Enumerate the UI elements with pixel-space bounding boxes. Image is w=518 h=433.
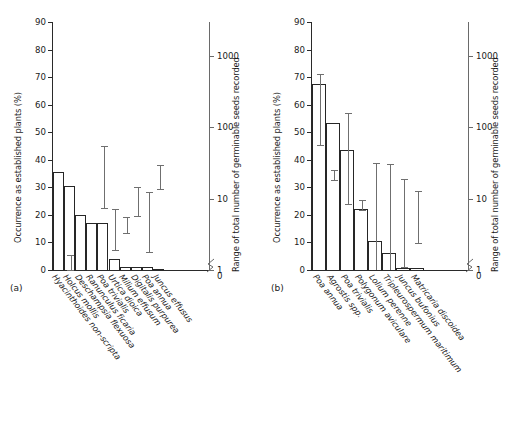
error-bar (320, 74, 321, 145)
bar (109, 259, 120, 270)
bar (97, 223, 108, 270)
error-bar-cap-top (317, 74, 324, 75)
error-bar (127, 217, 128, 233)
bar (75, 215, 86, 270)
left-tick (48, 105, 52, 106)
panel-b-right-axis-title: Range of total number of germinable seed… (490, 57, 500, 272)
error-bar-cap-top (401, 179, 408, 180)
right-tick (468, 56, 473, 57)
left-tick-label: 90 (294, 18, 305, 27)
right-tick-label: 100 (217, 123, 233, 132)
left-tick-label: 10 (294, 238, 305, 247)
error-bar (390, 164, 391, 270)
error-bar-cap-top (331, 170, 338, 171)
error-bar (348, 113, 349, 204)
error-bar-cap-top (101, 146, 108, 147)
bar (131, 267, 142, 270)
bar (120, 267, 131, 270)
left-tick-label: 50 (35, 128, 46, 137)
right-tick-label: 100 (476, 123, 492, 132)
error-bar-cap-top (134, 187, 141, 188)
error-bar-cap-bottom (359, 210, 366, 211)
figure-root: Occurrence as established plants (%) Ran… (0, 0, 518, 433)
error-bar-cap-bottom (67, 270, 74, 271)
left-tick-label: 20 (294, 211, 305, 220)
left-tick-label: 0 (300, 266, 305, 275)
left-tick (48, 215, 52, 216)
left-tick-label: 50 (294, 128, 305, 137)
bar (368, 241, 382, 270)
panel-a-right-axis-line (209, 22, 210, 270)
bar (340, 150, 354, 270)
error-bar (334, 170, 335, 180)
left-tick (48, 132, 52, 133)
left-tick-label: 30 (294, 183, 305, 192)
error-bar-cap-bottom (345, 204, 352, 205)
left-tick (48, 77, 52, 78)
error-bar (71, 255, 72, 270)
left-tick (307, 187, 311, 188)
right-tick (468, 127, 473, 128)
left-tick-label: 20 (35, 211, 46, 220)
panel-b-left-axis-title: Occurrence as established plants (%) (272, 92, 282, 243)
error-bar-cap-bottom (146, 252, 153, 253)
left-tick (307, 132, 311, 133)
bar (153, 269, 164, 270)
left-tick (48, 160, 52, 161)
left-tick (48, 242, 52, 243)
error-bar-cap-top (146, 192, 153, 193)
panel-a-right-axis-title: Range of total number of germinable seed… (231, 57, 241, 272)
left-tick (48, 50, 52, 51)
left-tick-label: 80 (35, 45, 46, 54)
error-bar (404, 179, 405, 267)
left-tick (307, 77, 311, 78)
error-bar (362, 200, 363, 209)
right-tick-label: 10 (476, 194, 487, 203)
left-tick-label: 70 (35, 73, 46, 82)
error-bar-cap-top (345, 113, 352, 114)
bar (326, 123, 340, 270)
bar (142, 267, 153, 270)
panel-a-category-labels: Hyacinthoides non-scriptaHolcus mollisDe… (52, 272, 222, 422)
left-tick-label: 40 (294, 155, 305, 164)
right-tick (209, 127, 214, 128)
error-bar-cap-bottom (101, 208, 108, 209)
left-tick (48, 270, 52, 271)
error-bar-cap-top (157, 165, 164, 166)
left-tick (307, 50, 311, 51)
panel-a-plot-area: 010203040506070809011010010000 (52, 22, 164, 270)
right-tick-label: 10 (217, 194, 228, 203)
left-tick (307, 242, 311, 243)
panel-b-right-axis-line (468, 22, 469, 270)
error-bar-cap-bottom (415, 243, 422, 244)
error-bar-cap-top (359, 200, 366, 201)
left-tick (48, 187, 52, 188)
panel-b-category-labels: Poa annuaAgrostis spp.Poa trivialisPolyg… (311, 272, 481, 422)
error-bar-cap-top (387, 164, 394, 165)
error-bar (160, 165, 161, 190)
error-bar-cap-bottom (134, 216, 141, 217)
bar (64, 186, 75, 270)
left-tick (307, 215, 311, 216)
left-tick-label: 40 (35, 155, 46, 164)
left-tick (307, 105, 311, 106)
panel-a-tag: (a) (10, 283, 23, 293)
bar (354, 209, 368, 270)
right-tick-label: 1000 (217, 52, 239, 61)
error-bar-cap-bottom (317, 145, 324, 146)
panel-b: Occurrence as established plants (%) Ran… (259, 0, 518, 433)
right-tick (468, 199, 473, 200)
left-tick-label: 30 (35, 183, 46, 192)
left-tick-label: 60 (294, 100, 305, 109)
left-tick-label: 60 (35, 100, 46, 109)
left-tick-label: 80 (294, 45, 305, 54)
error-bar-cap-bottom (157, 189, 164, 190)
left-tick-label: 70 (294, 73, 305, 82)
bar (410, 268, 424, 270)
left-tick (307, 160, 311, 161)
error-bar (149, 192, 150, 252)
error-bar-cap-top (112, 209, 119, 210)
panel-b-bars (311, 22, 423, 270)
left-tick-label: 0 (41, 266, 46, 275)
panel-a: Occurrence as established plants (%) Ran… (0, 0, 259, 433)
